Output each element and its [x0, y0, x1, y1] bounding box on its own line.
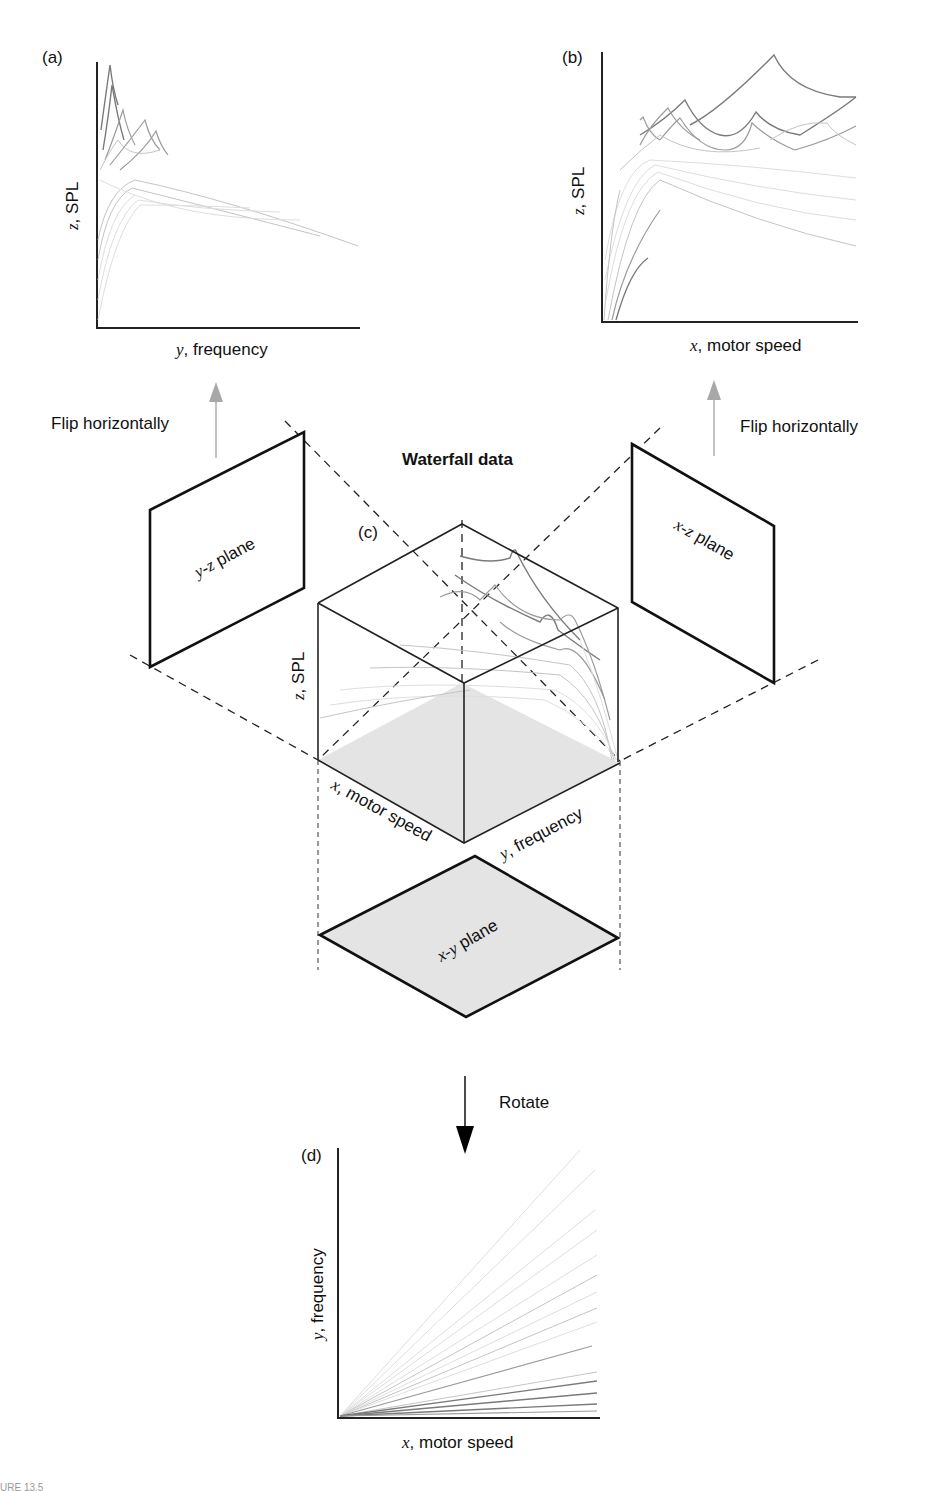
panel-d-xlabel: x, motor speed — [401, 1433, 514, 1452]
arrow-down-icon — [456, 1126, 474, 1154]
flip-left-label: Flip horizontally — [51, 414, 170, 433]
panel-b-ylabel: z, SPL — [569, 167, 588, 216]
panel-d-axes — [338, 1148, 600, 1418]
panel-d-tag: (d) — [301, 1146, 322, 1165]
arrow-up-icon — [707, 380, 721, 400]
flip-arrow-left — [209, 382, 223, 458]
panel-d: (d) x, motor speed y, frequency — [301, 1146, 600, 1452]
panel-b: (b) x, motor speed z, SPL — [562, 48, 858, 355]
arrow-up-icon — [209, 382, 223, 402]
xz-plane: x-z plane — [632, 444, 774, 683]
panel-b-xlabel: x, motor speed — [689, 336, 802, 355]
rotate-label: Rotate — [499, 1093, 549, 1112]
panel-a-tag: (a) — [42, 48, 63, 67]
xy-plane: x-y plane — [320, 856, 618, 1017]
rotate-arrow — [456, 1076, 474, 1154]
flip-arrow-right — [707, 380, 721, 456]
panel-a-ylabel: z, SPL — [63, 182, 82, 231]
panel-a: (a) y, frequency z, SPL — [42, 48, 360, 359]
panel-b-tag: (b) — [562, 48, 583, 67]
flip-right-label: Flip horizontally — [740, 417, 859, 436]
panel-c-tag: (c) — [358, 523, 378, 542]
panel-d-lines — [340, 1150, 597, 1416]
figure-title: Waterfall data — [402, 450, 513, 469]
panel-c: (c) z, SPL x, motor speed y, frequency — [289, 523, 620, 864]
panel-c-zlabel: z, SPL — [289, 652, 308, 701]
panel-d-ylabel: y, frequency — [308, 1248, 327, 1342]
panel-a-axes — [97, 62, 360, 328]
yz-plane: y-z plane — [150, 432, 304, 667]
figure-canvas: (a) y, frequency z, SPL (b) — [0, 0, 928, 1491]
figure-caption-partial: URE 13.5 — [0, 1482, 43, 1491]
panel-a-xlabel: y, frequency — [174, 340, 268, 359]
panel-b-curves — [604, 55, 856, 320]
panel-a-curves — [98, 65, 358, 320]
